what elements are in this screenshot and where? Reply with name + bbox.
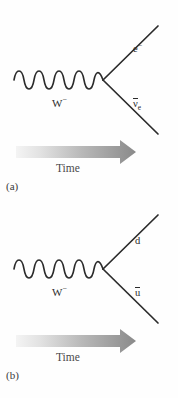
panel-caption-a: (a) [6, 181, 18, 192]
w-boson-label: W− [52, 98, 67, 109]
outgoing-line-upper [103, 215, 158, 269]
time-axis-label: Time [56, 163, 80, 175]
outgoing-line-upper [103, 26, 158, 80]
particle-label-electron: e− [133, 44, 142, 55]
outgoing-line-lower [103, 80, 158, 134]
feynman-diagram-panel-b: W− d u Time (b) [0, 199, 178, 398]
feynman-diagram-panel-a: W− e− νe Time (a) [0, 0, 178, 199]
particle-label-anti-up-quark: u [135, 288, 140, 299]
w-boson-wavy-line [14, 260, 103, 278]
time-arrow [16, 329, 136, 353]
panel-caption-b: (b) [6, 370, 19, 381]
particle-label-down-quark: d [135, 236, 140, 247]
time-axis-label: Time [56, 352, 80, 364]
outgoing-line-lower [103, 269, 158, 323]
diagram-a-graphics [0, 0, 178, 199]
w-boson-wavy-line [14, 71, 103, 89]
time-arrow [16, 140, 136, 164]
diagram-b-graphics [0, 199, 178, 398]
particle-label-electron-antineutrino: νe [133, 99, 141, 110]
w-boson-label: W− [52, 287, 67, 298]
